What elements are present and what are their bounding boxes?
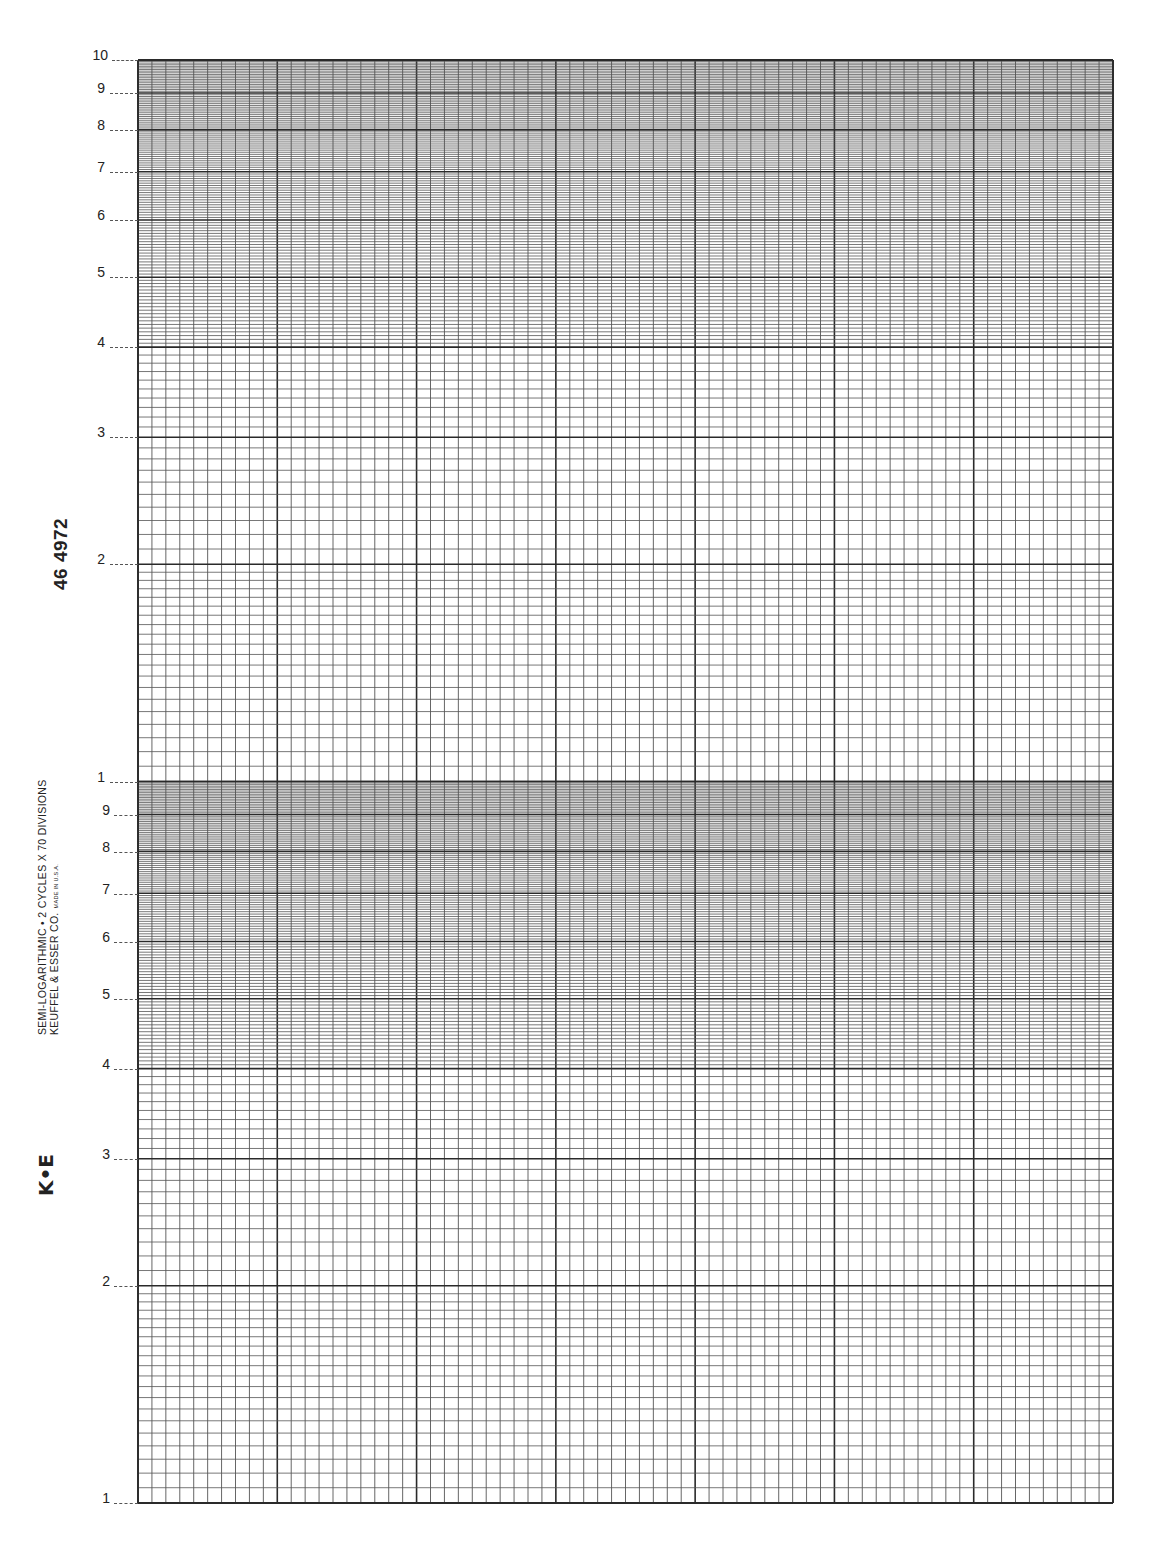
- y-axis-label: 4: [75, 335, 105, 349]
- label-leader: [114, 1069, 138, 1070]
- label-leader: [114, 894, 138, 895]
- y-axis-label: 3: [80, 1147, 110, 1161]
- y-axis-label: 5: [80, 987, 110, 1001]
- y-axis-label: 4: [80, 1057, 110, 1071]
- y-axis-label: 3: [75, 425, 105, 439]
- maker-name: KEUFFEL & ESSER CO.: [48, 912, 60, 1035]
- label-leader: [114, 815, 138, 816]
- label-leader: [114, 999, 138, 1000]
- label-leader: [114, 942, 138, 943]
- label-leader: [110, 93, 138, 94]
- made-in: MADE IN U.S.A.: [53, 864, 59, 909]
- label-leader: [112, 60, 138, 61]
- label-leader: [110, 347, 138, 348]
- label-leader: [114, 1503, 138, 1504]
- label-leader: [110, 564, 138, 565]
- y-axis-label: 8: [75, 118, 105, 132]
- y-axis-label: 2: [80, 1274, 110, 1288]
- brand-block: SEMI-LOGARITHMIC • 2 CYCLES X 70 DIVISIO…: [36, 780, 60, 1036]
- y-axis-label: 10: [78, 48, 108, 62]
- label-leader: [114, 852, 138, 853]
- label-leader: [110, 220, 138, 221]
- y-axis-label: 1: [80, 1491, 110, 1505]
- label-leader: [110, 782, 138, 783]
- y-axis-label: 2: [75, 552, 105, 566]
- label-leader: [110, 130, 138, 131]
- paper-title: SEMI-LOGARITHMIC • 2 CYCLES X 70 DIVISIO…: [36, 780, 48, 1036]
- label-leader: [110, 172, 138, 173]
- y-axis-label: 6: [75, 208, 105, 222]
- y-axis-label: 1: [75, 770, 105, 784]
- y-axis-label: 9: [80, 803, 110, 817]
- label-leader: [114, 1159, 138, 1160]
- catalog-number: 46 4972: [50, 518, 72, 590]
- label-leader: [110, 277, 138, 278]
- label-leader: [114, 1286, 138, 1287]
- y-axis-label: 6: [80, 930, 110, 944]
- log-grid: [0, 0, 1154, 1551]
- y-axis-label: 7: [75, 160, 105, 174]
- y-axis-label: 5: [75, 265, 105, 279]
- ke-logo-icon: K•E: [34, 1154, 58, 1196]
- label-leader: [110, 437, 138, 438]
- y-axis-label: 7: [80, 882, 110, 896]
- y-axis-label: 8: [80, 840, 110, 854]
- y-axis-label: 9: [75, 81, 105, 95]
- maker-line: KEUFFEL & ESSER CO.MADE IN U.S.A.: [48, 780, 60, 1036]
